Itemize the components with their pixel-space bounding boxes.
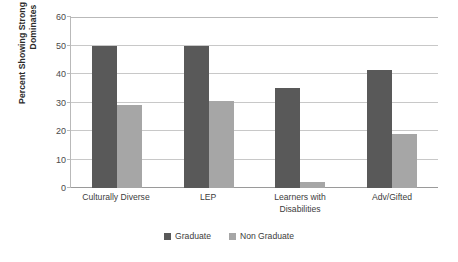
x-axis-label-line: Culturally Diverse <box>70 192 162 204</box>
legend-swatch-icon <box>229 233 236 240</box>
x-axis-label-line: Learners with <box>254 192 346 204</box>
bar-group <box>71 17 163 188</box>
x-axis-labels: Culturally DiverseLEPLearners withDisabi… <box>70 192 438 220</box>
legend-label: Graduate <box>175 231 211 241</box>
y-tick-label-20: 20 <box>56 126 66 136</box>
y-tick-label-10: 10 <box>56 155 66 165</box>
bar-chart: Percent Showing Strong Influence to Domi… <box>0 0 458 262</box>
x-axis-label-line: Adv/Gifted <box>346 192 438 204</box>
x-axis-label: Adv/Gifted <box>346 192 438 220</box>
bar-non-graduate[interactable] <box>300 182 325 188</box>
y-tick-label-0: 0 <box>61 183 66 193</box>
bar-group <box>163 17 255 188</box>
chart-legend: GraduateNon Graduate <box>0 231 458 241</box>
legend-label: Non Graduate <box>240 231 294 241</box>
bar-groups <box>71 17 438 188</box>
x-axis-label-line: Disabilities <box>254 204 346 216</box>
bar-non-graduate[interactable] <box>117 105 142 188</box>
legend-item[interactable]: Graduate <box>164 231 211 241</box>
bar-graduate[interactable] <box>92 46 117 189</box>
bar-non-graduate[interactable] <box>392 134 417 188</box>
bar-group <box>346 17 438 188</box>
bar-non-graduate[interactable] <box>209 101 234 188</box>
bar-graduate[interactable] <box>367 70 392 188</box>
bar-graduate[interactable] <box>275 88 300 188</box>
x-axis-label-line: LEP <box>162 192 254 204</box>
x-axis-label: Culturally Diverse <box>70 192 162 220</box>
x-axis-label: Learners withDisabilities <box>254 192 346 220</box>
legend-swatch-icon <box>164 233 171 240</box>
bar-graduate[interactable] <box>184 46 209 189</box>
y-tick-label-50: 50 <box>56 41 66 51</box>
plot-area: 0102030405060 <box>70 17 438 188</box>
y-axis-title: Percent Showing Strong Influence to Domi… <box>15 0 41 117</box>
x-axis-label: LEP <box>162 192 254 220</box>
legend-item[interactable]: Non Graduate <box>229 231 294 241</box>
y-tick-label-60: 60 <box>56 12 66 22</box>
y-axis-title-line-2: Dominates <box>28 5 39 50</box>
y-tick-label-40: 40 <box>56 69 66 79</box>
y-axis-title-line-1: Percent Showing Strong Influence to <box>17 0 28 104</box>
bar-group <box>255 17 347 188</box>
y-tick-label-30: 30 <box>56 98 66 108</box>
